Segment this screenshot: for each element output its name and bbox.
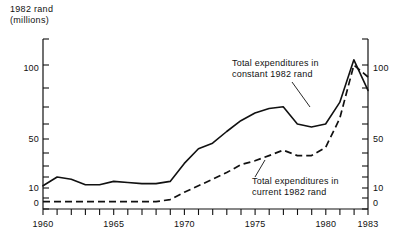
annotation-current-line2: current 1982 rand [252, 187, 326, 197]
x-tick-label-1960: 1960 [33, 219, 54, 229]
annotation-constant-line1: Total expenditures in [232, 58, 319, 68]
y-tick-label-right-100: 100 [373, 63, 389, 73]
x-tick-label-1983: 1983 [358, 219, 379, 229]
annotation-current-leader-line [255, 160, 265, 177]
chart-canvas: 100 50 10 0 100 50 10 0 [0, 0, 400, 237]
annotation-constant-line2: constant 1982 rand [232, 69, 313, 79]
right-y-ticks [362, 39, 368, 209]
x-ticks [43, 209, 368, 215]
y-tick-label-right-50: 50 [373, 134, 383, 144]
y-tick-label-right-10: 10 [373, 183, 383, 193]
chart-figure: 1982 rand (millions) [0, 0, 400, 237]
y-tick-label-left-100: 100 [23, 63, 39, 73]
x-tick-label-1975: 1975 [245, 219, 266, 229]
series-line-constant-1982-rand [43, 60, 368, 186]
annotation-current-line1: Total expenditures in [252, 176, 339, 186]
y-tick-label-left-10: 10 [29, 183, 39, 193]
x-tick-label-1965: 1965 [103, 219, 124, 229]
y-tick-label-left-0: 0 [34, 198, 39, 208]
x-tick-label-1980: 1980 [315, 219, 336, 229]
annotation-constant-leader-line [292, 82, 310, 107]
x-tick-label-1970: 1970 [174, 219, 195, 229]
y-tick-label-right-0: 0 [373, 198, 378, 208]
y-tick-label-left-50: 50 [29, 134, 39, 144]
